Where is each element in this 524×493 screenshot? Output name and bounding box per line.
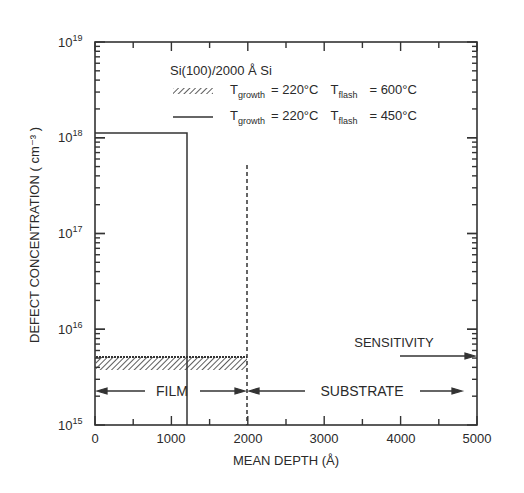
y-tick-1e16: 1016 (58, 320, 82, 337)
sensitivity-label: SENSITIVITY (354, 335, 434, 350)
substrate-label: SUBSTRATE (321, 383, 404, 399)
legend-swatch-hatched (173, 88, 213, 94)
y-tick-1e18: 1018 (58, 128, 82, 145)
y-tick-1e19: 1019 (58, 33, 82, 50)
y-tick-1e15: 1015 (58, 416, 82, 433)
legend-entry-600c: Tgrowth= 220°CTflash= 600°C (230, 82, 417, 100)
legend-title: Si(100)/2000 Å Si (170, 63, 272, 78)
x-tick-2000: 2000 (234, 431, 263, 446)
x-tick-0: 0 (91, 431, 98, 446)
legend-entry-450c: Tgrowth= 220°CTflash= 450°C (230, 108, 417, 126)
x-tick-1000: 1000 (157, 431, 186, 446)
chart: 1015 1016 1017 1018 1019 0 1000 2000 300… (0, 0, 524, 493)
series-450c-line (95, 133, 187, 425)
y-tick-1e17: 1017 (58, 224, 82, 241)
x-tick-3000: 3000 (310, 431, 339, 446)
legend: Si(100)/2000 Å Si Tgrowth= 220°CTflash= … (170, 63, 417, 126)
x-tick-5000: 5000 (463, 431, 492, 446)
sensitivity-arrow (400, 353, 475, 359)
series-600c-band (96, 357, 247, 370)
y-tick-labels: 1015 1016 1017 1018 1019 (58, 33, 82, 433)
x-axis-label: MEAN DEPTH (Å) (233, 453, 339, 468)
x-tick-4000: 4000 (387, 431, 416, 446)
film-label: FILM (156, 383, 188, 399)
y-axis-label: DEFECT CONCENTRATION ( cm⁻³ ) (27, 127, 42, 343)
x-tick-labels: 0 1000 2000 3000 4000 5000 (91, 431, 491, 446)
